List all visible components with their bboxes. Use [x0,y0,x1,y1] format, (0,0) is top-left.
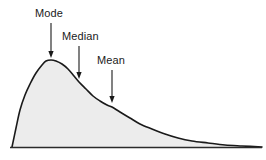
skewed-distribution-figure: Mode Median Mean [0,0,266,160]
annotation-label-mean: Mean [97,54,125,66]
distribution-chart [0,0,266,160]
arrow-head-mode [48,51,53,58]
distribution-area-fill [12,60,262,147]
annotation-arrow-median [76,46,81,79]
annotation-arrow-mode [48,23,53,58]
annotation-label-median: Median [62,30,99,42]
annotation-label-mode: Mode [35,7,63,19]
annotation-arrow-mean [109,70,114,103]
arrow-head-median [76,72,81,79]
arrow-head-mean [109,96,114,103]
